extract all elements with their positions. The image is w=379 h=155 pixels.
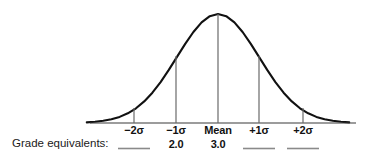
grade-equivalents-caption: Grade equivalents:: [12, 137, 109, 149]
ordinate-lines-group: [134, 14, 303, 123]
grade-equivalent-mean: 3.0: [188, 138, 248, 150]
tick-label-plus-2-sd: +2σ: [273, 124, 333, 136]
normal-curve-figure: −2σ−1σMean+1σ+2σ 2.03.0 Grade equivalent…: [0, 0, 379, 155]
